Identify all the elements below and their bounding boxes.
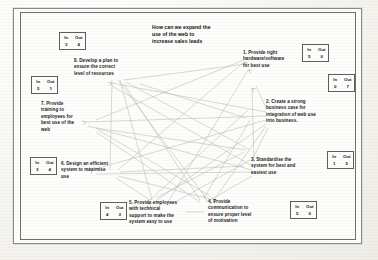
node-8-label[interactable]: 8. Develop a plan to ensure the correct …	[74, 58, 118, 77]
node-7-line: best use of the	[41, 120, 74, 126]
node-1-out-value: 0	[316, 53, 329, 60]
node-5-label[interactable]: 5. Provide employees with technical supp…	[129, 200, 177, 226]
node-6-out-value: 4	[44, 166, 57, 173]
node-5-line: system easy to use	[129, 219, 177, 225]
node-8-line: level of resources	[74, 71, 118, 77]
node-4-line: communication to	[208, 205, 251, 211]
node-6-line: system to maximise	[61, 167, 108, 173]
node-6-in-value: 3	[31, 166, 44, 173]
out-label: Out	[341, 153, 354, 160]
node-5-io-box: InOut 43	[100, 202, 127, 220]
node-8-in-value: 3	[60, 41, 73, 48]
node-3-io-box: InOut 15	[327, 151, 354, 169]
digraph-title: How can we expand the use of the web to …	[152, 24, 211, 46]
out-label: Out	[73, 34, 86, 41]
node-6-io-box: InOut 34	[30, 157, 57, 175]
in-label: In	[328, 153, 341, 160]
in-label: In	[60, 34, 73, 41]
node-2-io-box: InOut 07	[328, 74, 355, 92]
node-1-label[interactable]: 1. Provide right hardware/software for b…	[243, 50, 284, 69]
node-8-io-box: InOut 34	[59, 32, 86, 50]
node-7-in-value: 5	[32, 85, 45, 92]
node-3-in-value: 1	[328, 160, 341, 167]
title-line: How can we expand the	[152, 24, 211, 31]
node-7-io-box: InOut 51	[31, 76, 58, 94]
node-6-line: use	[61, 174, 108, 180]
node-3-line: easiest use	[251, 170, 295, 176]
node-7-line: web	[41, 127, 74, 133]
in-label: In	[32, 78, 45, 85]
node-4-label[interactable]: 4. Provide communication to ensure prope…	[208, 199, 251, 225]
node-3-line: system for best and	[251, 163, 295, 169]
node-6-label[interactable]: 6. Design an efficient system to maximis…	[61, 161, 108, 180]
node-3-label[interactable]: 3. Standardise the system for best and e…	[251, 157, 295, 176]
node-2-in-value: 0	[329, 83, 342, 90]
title-line: increase sales leads	[152, 38, 211, 45]
in-label: In	[31, 159, 44, 166]
node-8-out-value: 4	[73, 41, 86, 48]
node-1-line: for best use	[243, 63, 284, 69]
node-7-label[interactable]: 7. Provide training to employees for bes…	[41, 101, 74, 133]
title-line: use of the web to	[152, 31, 211, 38]
in-label: In	[291, 203, 304, 210]
node-4-in-value: 5	[291, 210, 304, 217]
in-label: In	[101, 204, 114, 211]
node-2-label[interactable]: 2. Create a strong business case for int…	[266, 99, 316, 125]
in-label: In	[303, 46, 316, 53]
node-1-in-value: 5	[303, 53, 316, 60]
out-label: Out	[342, 76, 355, 83]
out-label: Out	[44, 159, 57, 166]
node-5-in-value: 4	[101, 211, 114, 218]
node-7-out-value: 1	[45, 85, 58, 92]
node-8-line: ensure the correct	[74, 64, 118, 70]
node-5-out-value: 3	[114, 211, 127, 218]
node-3-out-value: 5	[341, 160, 354, 167]
node-4-out-value: 0	[304, 210, 317, 217]
out-label: Out	[114, 204, 127, 211]
node-2-line: into business.	[266, 118, 316, 124]
node-4-io-box: InOut 50	[290, 201, 317, 219]
node-1-io-box: InOut 50	[302, 44, 329, 62]
out-label: Out	[304, 203, 317, 210]
digraph-canvas: How can we expand the use of the web to …	[0, 0, 378, 260]
node-4-line: of motivation	[208, 218, 251, 224]
out-label: Out	[316, 46, 329, 53]
out-label: Out	[45, 78, 58, 85]
node-2-out-value: 7	[342, 83, 355, 90]
node-1-line: hardware/software	[243, 56, 284, 62]
in-label: In	[329, 76, 342, 83]
